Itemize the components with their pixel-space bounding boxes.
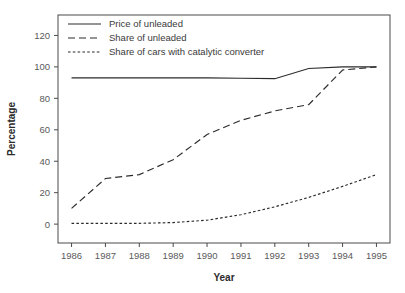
legend-label-1: Share of unleaded bbox=[109, 32, 187, 43]
y-axis-tick-label: 80 bbox=[39, 93, 50, 104]
series-line-2 bbox=[72, 175, 377, 224]
y-axis-tick-label: 20 bbox=[39, 187, 50, 198]
chart-figure: 0204060801001201986198719881989199019911… bbox=[0, 0, 405, 293]
y-axis-tick-label: 60 bbox=[39, 124, 50, 135]
y-axis-tick-label: 120 bbox=[34, 30, 50, 41]
x-axis-tick-label: 1995 bbox=[366, 250, 387, 261]
x-axis-tick-label: 1987 bbox=[95, 250, 116, 261]
y-axis-tick-label: 0 bbox=[45, 219, 50, 230]
legend-label-2: Share of cars with catalytic converter bbox=[109, 46, 264, 57]
y-axis-title: Percentage bbox=[6, 102, 17, 156]
legend-label-0: Price of unleaded bbox=[109, 18, 183, 29]
series-line-1 bbox=[72, 67, 377, 209]
x-axis-title: Year bbox=[213, 272, 234, 283]
x-axis-tick-label: 1993 bbox=[298, 250, 319, 261]
line-chart: 0204060801001201986198719881989199019911… bbox=[0, 0, 405, 293]
y-axis-tick-label: 40 bbox=[39, 156, 50, 167]
x-axis-tick-label: 1992 bbox=[264, 250, 285, 261]
x-axis-tick-label: 1991 bbox=[230, 250, 251, 261]
x-axis-tick-label: 1994 bbox=[332, 250, 353, 261]
series-line-0 bbox=[72, 67, 377, 79]
x-axis-tick-label: 1988 bbox=[129, 250, 150, 261]
x-axis-tick-label: 1989 bbox=[163, 250, 184, 261]
x-axis-tick-label: 1990 bbox=[196, 250, 217, 261]
y-axis-tick-label: 100 bbox=[34, 61, 50, 72]
x-axis-tick-label: 1986 bbox=[61, 250, 82, 261]
